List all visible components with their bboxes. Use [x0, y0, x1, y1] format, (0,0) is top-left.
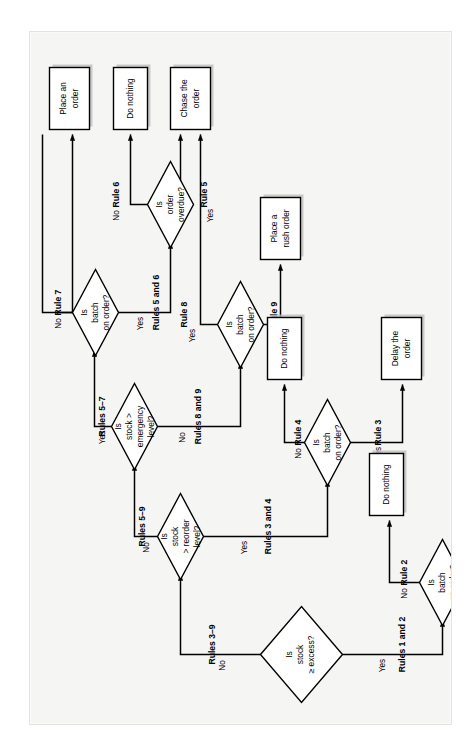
rule-label-7: Rule 7 [52, 289, 62, 315]
action-node-delay-the-order[interactable]: Delay the order [381, 314, 424, 379]
d5-line-2: stock > [123, 413, 133, 440]
decision-node-is-batch-on-order-1[interactable]: Is batch on order? [419, 539, 451, 625]
d3-line-2: stock [169, 525, 179, 545]
action-node-place-a-rush-order[interactable]: Place a rush order [260, 194, 303, 259]
rule-label-3: Rule 3 [372, 419, 382, 445]
d3-line-1: Is [158, 533, 168, 540]
d8-line-3: overdue? [175, 186, 185, 221]
a4-line-1: Do nothing [278, 327, 288, 368]
edge-layer [42, 134, 451, 654]
page-root: Yes Rules 1 and 2 No Rules 3–9 Yes Rule … [0, 0, 475, 751]
d2-line-1: Is [425, 579, 435, 586]
rule-label-8: Rule 8 [178, 301, 188, 327]
a9-line-1: Place a [268, 214, 278, 242]
d6-line-1: Is [223, 321, 233, 328]
rule-label-5: Rule 5 [198, 181, 208, 207]
a5-line-1: Chase the [178, 79, 188, 118]
branch-label-d1-yes: Yes [377, 658, 386, 671]
decision-node-is-batch-on-order-3[interactable]: Is batch on order? [217, 281, 263, 367]
a9-line-2: rush order [280, 209, 290, 247]
branch-label-d8-no: No [111, 209, 120, 220]
branch-label-d2-no: No [399, 587, 408, 598]
rule-label-5to7: Rules 5–7 [96, 396, 106, 436]
d4-line-2: batch [321, 431, 331, 452]
action-node-layer: Cancel the order Do nothing Delay the [49, 64, 451, 515]
d6-line-2: batch [234, 313, 244, 334]
rule-label-1and2: Rules 1 and 2 [396, 616, 406, 672]
branch-label-d8-yes: Yes [205, 208, 214, 221]
decision-node-is-batch-on-order-4[interactable]: Is batch on order? [72, 269, 118, 355]
d1-line-1: Is [283, 651, 293, 658]
action-node-do-nothing-rule2[interactable]: Do nothing [369, 450, 406, 515]
branch-label-d7-no: No [53, 317, 62, 328]
d8-line-2: order [164, 194, 174, 214]
decision-node-is-stock-emergency-level[interactable]: Is stock > emergency level? [111, 383, 157, 469]
branch-label-d7-yes: Yes [135, 316, 144, 329]
edge-d8-a6 [130, 134, 147, 204]
rule-label-4: Rule 4 [292, 419, 302, 445]
d4-line-3: on order? [332, 424, 342, 460]
diagram-content-group: Yes Rules 1 and 2 No Rules 3–9 Yes Rule … [42, 64, 451, 702]
d5-line-3: emergency [134, 404, 144, 446]
rule-label-8and9: Rules 8 and 9 [192, 388, 202, 444]
action-node-place-an-order[interactable]: Place an order [49, 64, 92, 129]
branch-label-d1-no: No [217, 659, 226, 670]
d3-line-3: > reorder [180, 519, 190, 553]
d3-line-4: level? [191, 525, 201, 547]
a3-line-1: Delay the [389, 330, 399, 366]
d5-line-4: level? [145, 415, 155, 437]
action-node-do-nothing-rule6[interactable]: Do nothing [113, 64, 150, 129]
d6-line-3: on order? [245, 306, 255, 342]
edge-d7-d8 [117, 242, 170, 312]
a5-line-2: order [190, 88, 200, 108]
branch-label-d3-yes: Yes [239, 540, 248, 553]
edge-d7-a7-ok [58, 134, 72, 312]
edge-d1-d3 [180, 574, 260, 654]
d2-line-2: batch [436, 571, 446, 592]
rule-label-5to9: Rules 5–9 [136, 506, 146, 546]
rule-label-6: Rule 6 [110, 181, 120, 207]
rule-label-3and4: Rules 3 and 4 [262, 498, 272, 554]
d4-line-1: Is [310, 439, 320, 446]
decision-node-is-batch-on-order-2[interactable]: Is batch on order? [304, 399, 350, 485]
d7-line-2: batch [89, 301, 99, 322]
decision-node-is-order-overdue[interactable]: Is order overdue? [147, 161, 193, 247]
edge-d7-to-a7-clean [42, 134, 72, 312]
a3-line-2: order [401, 338, 411, 358]
rule-label-2: Rule 2 [398, 559, 408, 585]
edge-d6-a5 [200, 134, 217, 324]
d5-line-1: Is [112, 423, 122, 430]
edge-d1-d2 [342, 620, 442, 654]
action-node-do-nothing-rule4[interactable]: Do nothing [267, 314, 304, 379]
d7-line-1: Is [78, 309, 88, 316]
decision-node-is-stock-excess[interactable]: Is stock ≥ excess? [260, 606, 342, 702]
a7-line-1: Place an [57, 81, 67, 114]
branch-label-d4-no: No [293, 447, 302, 458]
action-node-chase-the-order[interactable]: Chase the order [170, 64, 213, 129]
d7-line-3: on order? [100, 294, 110, 330]
branch-label-d6-yes: Yes [187, 328, 196, 341]
d2-line-3: on order? [447, 564, 451, 600]
a7-line-2: order [69, 88, 79, 108]
scanned-page-frame: Yes Rules 1 and 2 No Rules 3–9 Yes Rule … [29, 31, 452, 725]
rule-label-5and6: Rules 5 and 6 [150, 274, 160, 330]
a2-line-1: Do nothing [380, 463, 390, 504]
d8-line-1: Is [153, 201, 163, 208]
rule-label-3to9: Rules 3–9 [206, 624, 216, 664]
a6-line-1: Do nothing [124, 77, 134, 118]
branch-label-d5-no: No [177, 431, 186, 442]
diagram-rotation-wrapper: Yes Rules 1 and 2 No Rules 3–9 Yes Rule … [30, 32, 451, 724]
flowchart-diagram: Yes Rules 1 and 2 No Rules 3–9 Yes Rule … [30, 32, 451, 724]
d1-line-3: ≥ excess? [305, 635, 315, 673]
d1-line-2: stock [294, 643, 304, 663]
decision-node-is-stock-reorder-level[interactable]: Is stock > reorder level? [157, 493, 203, 579]
